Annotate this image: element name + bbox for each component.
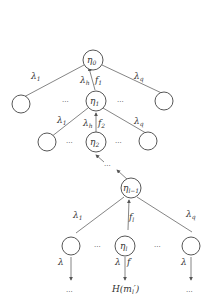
ellipsis-leaf-right: ... bbox=[186, 286, 193, 294]
edge-label-root-left: λ1 bbox=[30, 71, 41, 82]
terminal-label: H(ml′) bbox=[111, 284, 140, 295]
node-l0-left bbox=[12, 95, 30, 113]
ellipsis-ll-left: ... bbox=[94, 241, 101, 249]
edge-label-leaf-mid-f: f′ bbox=[126, 257, 132, 267]
edge-label-l1-mid-f: f2 bbox=[97, 118, 105, 129]
ellipsis-l0-left: ... bbox=[62, 96, 69, 104]
node-ll-right bbox=[182, 237, 200, 255]
edge-label-root-mid-lambda: λh bbox=[79, 75, 90, 86]
edge-label-ll-mid-f: fl bbox=[128, 212, 134, 223]
edge-root-left bbox=[22, 65, 84, 98]
node-l1-right bbox=[139, 132, 157, 150]
ellipsis-ll-right: ... bbox=[154, 241, 161, 249]
node-l1-left bbox=[38, 133, 56, 151]
ellipsis-l1-left: ... bbox=[66, 137, 73, 145]
edge-chain-1 bbox=[96, 155, 104, 162]
ellipsis-l1-right: ... bbox=[115, 137, 122, 145]
edge-label-root-right: λq bbox=[133, 71, 144, 83]
node-ll-left bbox=[62, 237, 80, 255]
edge-label-l1-mid-lambda: λh bbox=[82, 118, 93, 129]
ellipsis-leaf-left: ... bbox=[66, 286, 73, 294]
edge-l1-right bbox=[103, 108, 151, 136]
edge-label-ll-right: λq bbox=[185, 209, 196, 221]
tree-diagram: η0 η1 η2 ηl−1 ηl λ1 λh f1 λq λ1 λh f2 λq… bbox=[0, 0, 214, 305]
edge-ll-right bbox=[137, 197, 192, 232]
edge-label-root-mid-f: f1 bbox=[94, 75, 102, 86]
ellipsis-l0-right: ... bbox=[117, 96, 124, 104]
edge-ll-left bbox=[76, 197, 124, 233]
edge-label-leaf-right: λ bbox=[180, 257, 187, 267]
edge-chain-2 bbox=[117, 170, 128, 180]
node-l0-right bbox=[155, 92, 173, 110]
edge-label-leaf-left: λ bbox=[57, 257, 64, 267]
edge-label-leaf-mid-lambda: λ bbox=[114, 257, 121, 267]
edge-label-ll-left: λ1 bbox=[72, 210, 83, 221]
edge-label-l1-left: λ1 bbox=[56, 115, 67, 126]
ellipsis-chain: ... bbox=[104, 160, 111, 168]
